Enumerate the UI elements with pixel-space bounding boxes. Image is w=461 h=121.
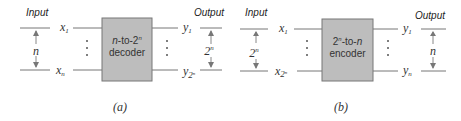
encoder-title-line2: encoder: [329, 48, 366, 59]
input-width-label: 2n: [249, 46, 259, 60]
input-width-label: n: [33, 44, 39, 58]
output-width-label: 2n: [204, 44, 214, 58]
input-ellipsis-icon: [306, 40, 308, 56]
encoder-title-line1: 2n-to-n: [333, 36, 363, 47]
output-y1-label: y1: [182, 20, 192, 35]
input-label: Input: [245, 7, 268, 18]
decoder-encoder-diagram: Input n x1 xn n-to-2n decoder: [0, 0, 461, 121]
decoder-title-line2: decoder: [109, 47, 146, 58]
input-label: Input: [26, 7, 49, 18]
input-xn-label: xn: [55, 63, 65, 78]
panel-b-encoder: Input 2n x1 x2n 2n-to-n encoder y1: [240, 7, 446, 114]
input-x1-label: x1: [59, 20, 69, 35]
input-x2n-label: x2n: [274, 64, 288, 79]
output-yn-label: yn: [402, 63, 412, 78]
panel-a-decoder: Input n x1 xn n-to-2n decoder: [20, 7, 225, 114]
output-label: Output: [415, 10, 446, 21]
output-ellipsis-icon: [166, 40, 168, 56]
output-ellipsis-icon: [387, 40, 389, 56]
output-y1-label: y1: [402, 21, 412, 36]
caption-b: (b): [334, 100, 348, 114]
caption-a: (a): [113, 100, 127, 114]
output-y2n-label: y2n: [182, 64, 196, 80]
input-ellipsis-icon: [86, 40, 88, 56]
decoder-title-line1: n-to-2n: [112, 35, 142, 46]
input-x1-label: x1: [278, 21, 288, 36]
output-label: Output: [194, 7, 225, 18]
output-width-label: n: [430, 44, 436, 58]
